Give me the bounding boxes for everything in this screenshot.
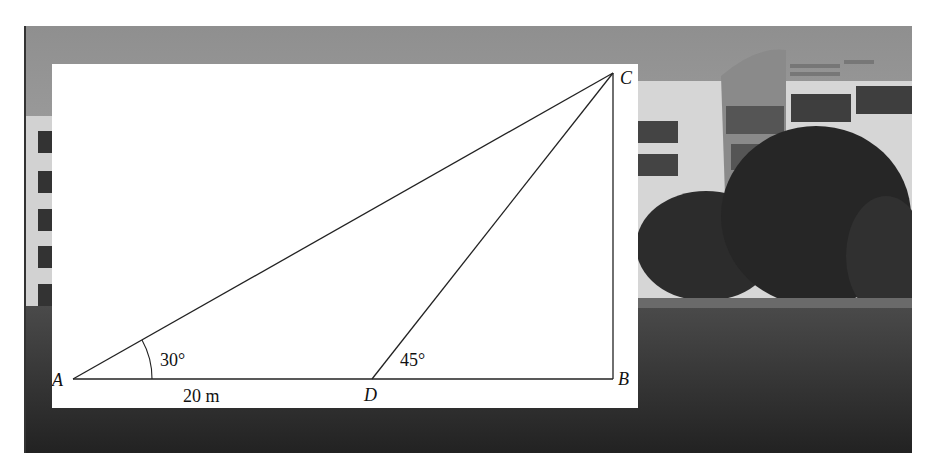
diagram-panel: A B C D 30° 45° 20 m <box>52 64 638 408</box>
segment-DC <box>372 73 613 379</box>
vertex-label-A: A <box>52 370 64 390</box>
triangle-diagram: A B C D 30° 45° 20 m <box>52 64 638 408</box>
cropped-text-strip <box>0 0 927 10</box>
angle-arc-A <box>142 340 152 379</box>
angle-label-D: 45° <box>400 350 425 370</box>
vertex-label-B: B <box>618 369 629 389</box>
segment-AC <box>73 73 613 379</box>
angle-label-A: 30° <box>160 350 185 370</box>
vertex-label-D: D <box>363 385 377 405</box>
vertex-label-C: C <box>620 68 633 88</box>
length-label-AD: 20 m <box>183 386 220 406</box>
